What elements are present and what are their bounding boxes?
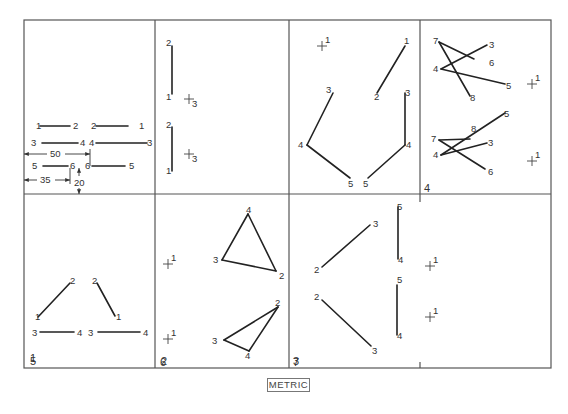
arrowhead-icon <box>24 178 29 182</box>
panel-number: 4 <box>424 182 430 194</box>
point-label: 1 <box>36 120 41 131</box>
point-label: 4 <box>298 139 303 150</box>
point-label: 8 <box>471 123 476 134</box>
point-label: 2 <box>70 275 75 286</box>
arrowhead-icon <box>24 152 29 156</box>
line-segment <box>322 300 371 346</box>
point-label: 6 <box>85 160 90 171</box>
point-label: 3 <box>373 218 378 229</box>
point-label: 1 <box>166 91 171 102</box>
point-label: 3 <box>213 254 218 265</box>
line-segment <box>248 214 276 271</box>
panel-number: 7 <box>293 356 299 368</box>
point-label: 1 <box>404 35 409 46</box>
point-label: 2 <box>374 91 379 102</box>
point-label: 4 <box>80 137 85 148</box>
crosshair-label: 1 <box>325 34 330 45</box>
line-segment <box>377 46 405 93</box>
point-label: 6 <box>489 57 494 68</box>
point-label: 4 <box>433 63 438 74</box>
point-label: 5 <box>348 178 353 189</box>
point-label: 4 <box>246 204 251 215</box>
line-segment <box>322 225 370 267</box>
point-label: 4 <box>77 327 82 338</box>
point-label: 1 <box>139 120 144 131</box>
point-label: 5 <box>129 160 134 171</box>
point-label: 4 <box>406 139 411 150</box>
point-label: 2 <box>275 297 280 308</box>
line-segment <box>97 283 115 316</box>
line-segment <box>224 307 278 340</box>
point-label: 3 <box>489 39 494 50</box>
line-segment <box>222 214 248 260</box>
point-label: 5 <box>363 178 368 189</box>
point-label: 6 <box>488 166 493 177</box>
point-label: 5 <box>397 274 402 285</box>
crosshair-label: 3 <box>192 153 197 164</box>
point-label: 4 <box>245 350 250 361</box>
point-label: 4 <box>433 149 438 160</box>
crosshair-label: 1 <box>171 327 176 338</box>
dimension-value: 35 <box>40 174 51 185</box>
point-label: 5 <box>504 108 509 119</box>
point-label: 1 <box>166 165 171 176</box>
point-label: 3 <box>488 137 493 148</box>
point-label: 3 <box>372 345 377 356</box>
point-label: 4 <box>89 137 94 148</box>
point-label: 2 <box>166 119 171 130</box>
line-segment <box>307 145 350 178</box>
point-label: 2 <box>314 264 319 275</box>
point-label: 3 <box>405 87 410 98</box>
point-label: 3 <box>326 84 331 95</box>
point-label: 3 <box>212 335 217 346</box>
dimension-value: 20 <box>74 177 85 188</box>
line-segment <box>441 69 505 84</box>
line-segment <box>441 113 505 155</box>
line-segment <box>368 145 405 178</box>
point-label: 4 <box>398 254 403 265</box>
metric-label: METRIC <box>267 378 310 392</box>
panel-number: 6 <box>160 356 166 368</box>
point-label: 3 <box>31 137 36 148</box>
point-label: 6 <box>70 160 75 171</box>
drawing-sheet: 1221344356655035201212133212334455137364… <box>0 0 568 414</box>
point-label: 1 <box>116 311 121 322</box>
point-label: 4 <box>143 327 148 338</box>
point-label: 5 <box>32 160 37 171</box>
point-label: 7 <box>433 35 438 46</box>
point-label: 8 <box>470 92 475 103</box>
point-label: 7 <box>431 133 436 144</box>
crosshair-label: 1 <box>433 305 438 316</box>
point-label: 4 <box>397 330 402 341</box>
point-label: 5 <box>397 201 402 212</box>
point-label: 2 <box>314 291 319 302</box>
line-segment <box>222 260 276 271</box>
crosshair-label: 1 <box>535 72 540 83</box>
point-label: 2 <box>166 37 171 48</box>
crosshair-label: 1 <box>171 252 176 263</box>
point-label: 3 <box>32 327 37 338</box>
arrowhead-icon <box>65 178 70 182</box>
line-segment <box>307 93 333 145</box>
point-label: 1 <box>35 311 40 322</box>
crosshair-label: 3 <box>192 98 197 109</box>
point-label: 2 <box>91 120 96 131</box>
arrowhead-icon <box>77 189 81 194</box>
arrowhead-icon <box>85 152 90 156</box>
point-label: 3 <box>147 137 152 148</box>
point-label: 5 <box>506 80 511 91</box>
crosshair-label: 1 <box>535 149 540 160</box>
crosshair-label: 1 <box>433 254 438 265</box>
line-segment <box>38 283 70 317</box>
dimension-value: 50 <box>50 148 61 159</box>
arrowhead-icon <box>77 168 81 173</box>
point-label: 2 <box>279 270 284 281</box>
point-label: 3 <box>88 327 93 338</box>
point-label: 2 <box>92 275 97 286</box>
point-label: 2 <box>73 120 78 131</box>
line-segment <box>249 307 278 351</box>
exercise-diagram: 1221344356655035201212133212334455137364… <box>0 0 568 414</box>
panel-number: 5 <box>30 355 36 367</box>
